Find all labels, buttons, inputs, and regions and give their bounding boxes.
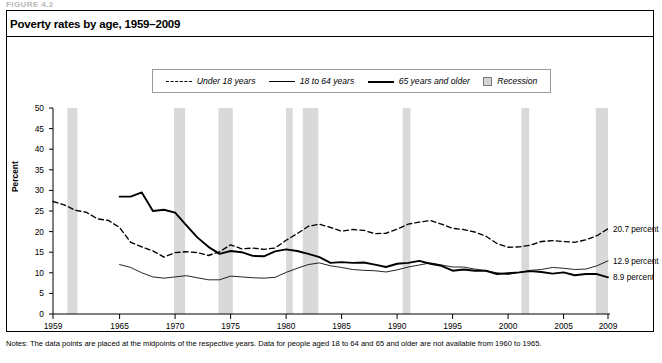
y-axis-tick-label: 25 — [22, 206, 44, 216]
recession-band — [403, 108, 411, 314]
x-axis-tick-label: 2005 — [554, 321, 573, 331]
x-axis-tick-label: 2009 — [599, 321, 618, 331]
y-axis-tick-label: 10 — [22, 268, 44, 278]
end-value-label: 12.9 percent — [613, 256, 659, 265]
chart-notes: Notes: The data points are placed at the… — [6, 339, 656, 348]
y-axis-tick-label: 50 — [22, 103, 44, 113]
y-axis-tick-label: 15 — [22, 247, 44, 257]
recession-band — [303, 108, 319, 314]
x-axis-tick-label: 1980 — [277, 321, 296, 331]
end-value-label: 20.7 percent — [613, 224, 659, 233]
x-axis-tick-label: 1970 — [166, 321, 185, 331]
y-axis-tick-label: 5 — [22, 288, 44, 298]
y-axis-tick-label: 40 — [22, 144, 44, 154]
end-value-label: 8.9 percent — [613, 273, 654, 282]
y-axis-tick-label: 35 — [22, 165, 44, 175]
recession-band — [521, 108, 529, 314]
y-axis-tick-label: 30 — [22, 185, 44, 195]
x-axis-tick-label: 1965 — [110, 321, 129, 331]
x-axis-tick-label: 1990 — [388, 321, 407, 331]
x-axis-tick-label: 1959 — [44, 321, 63, 331]
y-axis-tick-label: 45 — [22, 124, 44, 134]
x-axis-tick-label: 1995 — [443, 321, 462, 331]
recession-band — [286, 108, 293, 314]
series-line — [120, 192, 608, 277]
y-axis-tick-label: 0 — [22, 309, 44, 319]
chart-svg — [0, 0, 662, 363]
y-axis-tick-label: 20 — [22, 227, 44, 237]
x-axis-tick-label: 2000 — [499, 321, 518, 331]
recession-band — [174, 108, 185, 314]
x-axis-tick-label: 1985 — [332, 321, 351, 331]
plot-area: Percent 05101520253035404550195919651970… — [0, 0, 662, 363]
recession-band — [218, 108, 232, 314]
x-axis-tick-label: 1975 — [221, 321, 240, 331]
series-line — [120, 261, 608, 280]
recession-band — [596, 108, 608, 314]
